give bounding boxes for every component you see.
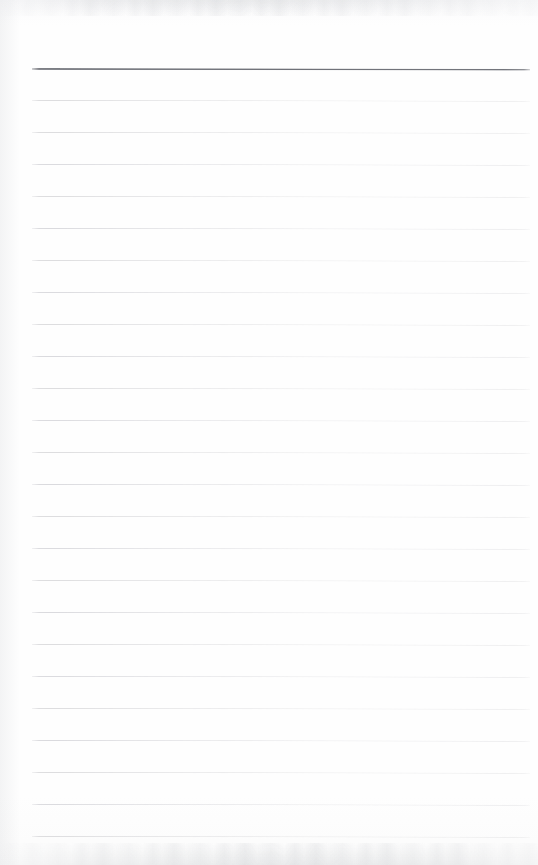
rule-line [32,228,530,230]
rule-line [32,676,530,678]
rule-line [32,516,530,518]
rule-line [32,772,530,774]
rule-line [32,548,530,550]
rule-line-ink [32,836,530,838]
scanned-page [0,0,538,865]
rule-line-ink [32,228,530,230]
rule-line [32,324,530,326]
rule-line-ink [32,164,530,166]
rule-line-ink [32,516,530,518]
rule-line-ink [32,708,530,710]
rule-line [32,132,530,134]
rule-line [32,580,530,582]
rule-line [32,420,530,422]
rule-line-ink [32,580,530,582]
rule-line-ink [32,388,530,390]
rule-line-ink [32,260,530,262]
rule-line [32,388,530,390]
rule-line [32,100,530,102]
rule-line-ink [32,676,530,678]
rule-line-ink [32,612,530,614]
rule-line [32,836,530,838]
rule-line-ink [32,420,530,422]
rule-line-ink [32,484,530,486]
rule-line [32,452,530,454]
rule-line-ink [32,452,530,454]
rule-line-ink [32,292,530,294]
rule-line-ink [32,740,530,742]
rule-line [32,196,530,198]
rule-line-ink [32,356,530,358]
rule-line-ink [32,772,530,774]
rule-line-ink [32,196,530,198]
rule-line-ink [32,804,530,806]
header-rule-line [32,68,530,71]
rule-line [32,804,530,806]
rule-line-ink [32,644,530,646]
rule-line [32,612,530,614]
rule-line-ink [32,548,530,550]
rule-line-ink [32,68,530,71]
rule-line-ink [32,324,530,326]
rule-line-ink [32,132,530,134]
rule-line [32,740,530,742]
rule-line [32,644,530,646]
rule-line [32,484,530,486]
ruled-line-layer [0,0,538,865]
rule-line [32,292,530,294]
rule-line [32,260,530,262]
rule-line-ink [32,100,530,102]
rule-line [32,708,530,710]
rule-line [32,164,530,166]
rule-line [32,356,530,358]
